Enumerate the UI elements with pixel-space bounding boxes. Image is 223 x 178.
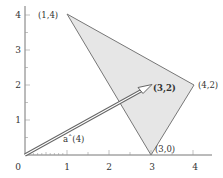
x-tick-0: 0	[15, 162, 21, 172]
vertex-label-3-0: (3,0)	[155, 144, 175, 154]
x-tick-4: 4	[192, 162, 198, 172]
y-tick-3: 3	[15, 45, 21, 55]
y-tick-1: 1	[15, 115, 21, 125]
x-tick-3: 3	[149, 162, 155, 172]
x-tick-1: 1	[64, 162, 70, 172]
vector-label: aˆ(4)	[63, 134, 84, 144]
y-minor-ticks	[25, 15, 30, 138]
diagram-canvas: 0 1 2 3 4 1 2 3 4 (1,4) (4,2) (3,0) (3,2…	[0, 0, 223, 178]
y-tick-4: 4	[15, 10, 21, 20]
vertex-label-4-2: (4,2)	[198, 80, 218, 90]
x-tick-2: 2	[106, 162, 112, 172]
vertex-label-1-4: (1,4)	[38, 10, 58, 20]
y-tick-2: 2	[15, 80, 21, 90]
vector-tip-label: (3,2)	[153, 83, 176, 94]
